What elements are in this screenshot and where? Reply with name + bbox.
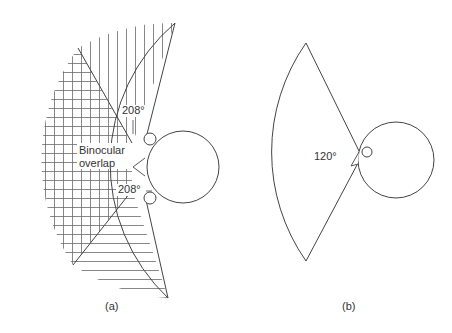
binocular-overlap-label-line1: Binocular — [79, 144, 125, 156]
binocular-overlap-label-line2: overlap — [79, 157, 115, 169]
top-angle-label: 208° — [122, 104, 145, 116]
angle-label-b: 120° — [314, 150, 337, 162]
overlap-wedge-marker — [133, 158, 145, 176]
panel-a: 208° 208° Binocular overlap (a) — [41, 23, 219, 312]
bottom-angle-label: 208° — [118, 183, 141, 195]
left-eye-circle — [144, 133, 156, 145]
head-circle — [147, 131, 219, 203]
eye-circle-b — [362, 147, 372, 157]
panel-b-caption: (b) — [342, 300, 355, 312]
panel-a-caption: (a) — [105, 300, 118, 312]
panel-b: 120° (b) — [272, 43, 434, 312]
head-circle-b — [358, 122, 434, 198]
right-eye-circle — [144, 192, 156, 204]
eye-wedge-marker-b — [351, 152, 359, 166]
visual-field-diagram: 208° 208° Binocular overlap (a) 120° (b) — [0, 0, 452, 333]
